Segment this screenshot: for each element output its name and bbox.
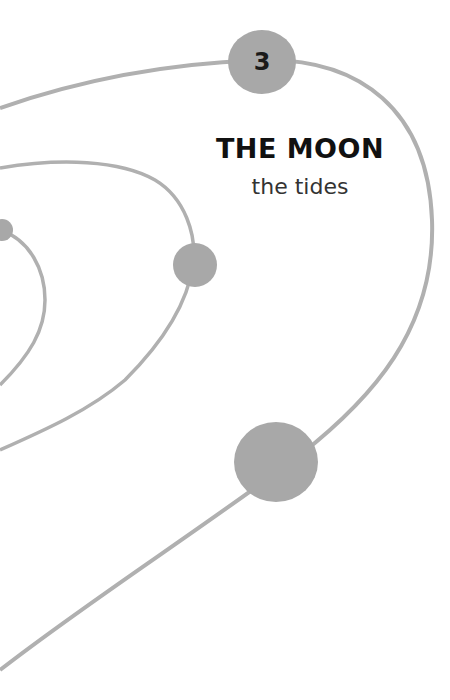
- inner-orbit-line: [0, 230, 45, 385]
- chapter-title: THE MOON: [205, 133, 395, 164]
- chapter-subtitle: the tides: [205, 174, 395, 199]
- inner-planet: [0, 219, 13, 241]
- orbit-illustration: [0, 0, 450, 700]
- chapter-number: 3: [236, 36, 288, 88]
- middle-orbit-line: [0, 162, 194, 450]
- outer-planet: [234, 422, 318, 502]
- middle-planet: [173, 243, 217, 287]
